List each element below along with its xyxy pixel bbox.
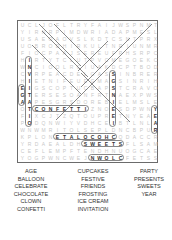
grid-cell: E (96, 50, 103, 57)
grid-cell: Y (19, 155, 26, 162)
grid-cell: O (131, 57, 138, 64)
grid-cell: C (152, 50, 159, 57)
grid-cell: S (68, 99, 75, 106)
grid-cell: C (103, 57, 110, 64)
grid-cell: S (61, 92, 68, 99)
grid-cell: U (19, 36, 26, 43)
grid-cell: L (61, 64, 68, 71)
grid-cell: H (89, 120, 96, 127)
grid-cell: N (145, 106, 152, 113)
grid-cell: C (145, 134, 152, 141)
grid-cell: I (82, 106, 89, 113)
grid-cell: C (33, 64, 40, 71)
grid-cell: E (152, 113, 159, 120)
grid-cell: D (124, 106, 131, 113)
grid-cell: U (145, 127, 152, 134)
grid-cell: T (68, 106, 75, 113)
grid-cell: I (96, 29, 103, 36)
grid-cell: T (117, 113, 124, 120)
grid-cell: I (124, 43, 131, 50)
word-year: YEAR (128, 191, 170, 199)
grid-cell: Y (19, 141, 26, 148)
grid-cell: A (54, 141, 61, 148)
grid-cell: T (138, 155, 145, 162)
grid-cell: A (19, 99, 26, 106)
grid-cell: L (145, 99, 152, 106)
grid-cell: I (124, 78, 131, 85)
grid-cell: C (117, 155, 124, 162)
grid-cell: I (68, 43, 75, 50)
grid-cell: O (54, 64, 61, 71)
grid-cell: F (68, 148, 75, 155)
grid-cell: Y (19, 29, 26, 36)
word-chocolate: CHOCOLATE (10, 191, 52, 199)
grid-cell: T (152, 22, 159, 29)
grid-cell: I (61, 29, 68, 36)
grid-cell: D (82, 120, 89, 127)
grid-cell: S (40, 85, 47, 92)
grid-cell: E (103, 141, 110, 148)
grid-cell: A (26, 99, 33, 106)
word-age: AGE (10, 168, 52, 176)
grid-cell: K (89, 36, 96, 43)
grid-cell: U (103, 50, 110, 57)
grid-cell: S (82, 141, 89, 148)
grid-cell: O (103, 155, 110, 162)
grid-cell: N (26, 64, 33, 71)
grid-cell: A (75, 92, 82, 99)
grid-cell: T (54, 57, 61, 64)
grid-cell: T (117, 85, 124, 92)
grid-cell: W (47, 155, 54, 162)
grid-cell: T (103, 36, 110, 43)
grid-cell: U (89, 43, 96, 50)
grid-cell: C (61, 155, 68, 162)
grid-cell: I (26, 57, 33, 64)
grid-cell: O (33, 50, 40, 57)
grid-cell: I (26, 50, 33, 57)
grid-cell: A (96, 22, 103, 29)
grid-cell: A (40, 141, 47, 148)
grid-cell: A (96, 85, 103, 92)
grid-cell: A (117, 92, 124, 99)
grid-cell: P (124, 64, 131, 71)
grid-cell: A (54, 71, 61, 78)
grid-cell: R (89, 99, 96, 106)
grid-cell: O (26, 155, 33, 162)
grid-cell: C (110, 134, 117, 141)
grid-cell: G (124, 57, 131, 64)
grid-cell: P (33, 99, 40, 106)
grid-cell: G (33, 85, 40, 92)
grid-cell: N (131, 78, 138, 85)
grid-cell: Y (82, 22, 89, 29)
grid-cell: T (75, 148, 82, 155)
grid-cell: E (131, 155, 138, 162)
grid-cell: N (96, 106, 103, 113)
word-celebrate: CELEBRATE (10, 183, 52, 191)
grid-cell: U (75, 85, 82, 92)
grid-cell: D (68, 141, 75, 148)
grid-cell: S (75, 36, 82, 43)
grid-cell: A (131, 134, 138, 141)
grid-cell: N (47, 106, 54, 113)
grid-cell: J (40, 22, 47, 29)
word-list-column-2: CUPCAKES FESTIVE FRIENDS FROSTING ICE CR… (68, 168, 118, 214)
grid-cell: H (103, 134, 110, 141)
grid-cell: R (40, 43, 47, 50)
grid-cell: X (33, 113, 40, 120)
grid-cell: E (96, 141, 103, 148)
grid-cell: L (131, 120, 138, 127)
grid-cell: T (26, 92, 33, 99)
grid-cell: W (82, 29, 89, 36)
grid-cell: H (75, 141, 82, 148)
grid-cell: L (33, 22, 40, 29)
grid-cell: E (68, 78, 75, 85)
grid-cell: R (96, 92, 103, 99)
grid-cell: E (138, 57, 145, 64)
grid-cell: R (152, 127, 159, 134)
grid-cell: E (138, 29, 145, 36)
grid-cell: J (110, 22, 117, 29)
grid-cell: F (54, 22, 61, 29)
grid-cell: P (40, 155, 47, 162)
grid-cell: A (138, 85, 145, 92)
grid-cell: P (47, 50, 54, 57)
